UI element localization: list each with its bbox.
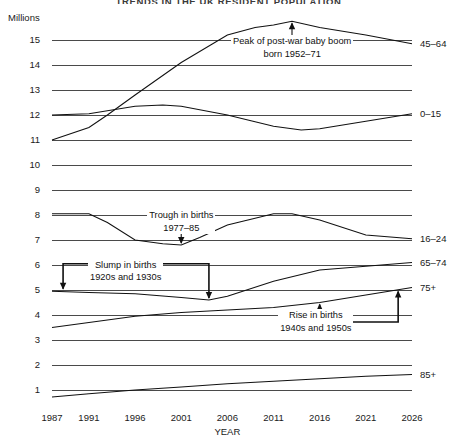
series-label-65-74: 65–74: [420, 257, 446, 268]
annotation-arrowhead: [206, 292, 212, 299]
annotation-trough-in-births: Trough in births1977–85: [147, 209, 215, 234]
x-axis-tick-label: 2026: [392, 412, 432, 423]
series-label-0-15: 0–15: [420, 108, 441, 119]
x-axis-title: YEAR: [197, 426, 257, 437]
annotation-line-1: Rise in births: [280, 309, 351, 322]
annotation-line-2: 1940s and 1950s: [280, 322, 351, 335]
annotation-line-1: Slump in births: [90, 259, 161, 272]
x-axis-tick-label: 2011: [254, 412, 294, 423]
annotation-slump-in-births: Slump in births1920s and 1930s: [88, 259, 163, 284]
x-axis-tick-label: 2021: [346, 412, 386, 423]
y-axis-tick-label: 7: [14, 234, 40, 245]
series-line-85+: [52, 375, 412, 398]
x-axis-tick-label: 2001: [161, 412, 201, 423]
x-axis-tick-label: 1987: [32, 412, 72, 423]
x-axis-tick-label: 2016: [300, 412, 340, 423]
series-label-85+: 85+: [420, 369, 436, 380]
y-axis-tick-label: 2: [14, 359, 40, 370]
y-axis-tick-label: 11: [14, 134, 40, 145]
annotation-line-2: 1920s and 1930s: [90, 271, 161, 284]
annotation-arrowhead: [395, 291, 401, 298]
y-axis-tick-label: 6: [14, 259, 40, 270]
annotation-line-1: Peak of post-war baby boom: [233, 35, 351, 48]
annotation-arrowhead: [289, 22, 295, 29]
y-axis-tick-label: 13: [14, 84, 40, 95]
y-axis-tick-label: 10: [14, 159, 40, 170]
chart-container: TRENDS IN THE UK RESIDENT POPULATION Mil…: [0, 0, 457, 440]
x-axis-tick-label: 1996: [115, 412, 155, 423]
series-line-0-15: [52, 105, 412, 130]
series-label-75+: 75+: [420, 282, 436, 293]
annotation-arrowhead: [60, 283, 66, 290]
annotation-line-2: 1977–85: [149, 222, 213, 235]
annotation-line-1: Trough in births: [149, 209, 213, 222]
chart-plot-area: [0, 0, 457, 440]
series-label-16-24: 16–24: [420, 233, 446, 244]
series-label-45-64: 45–64: [420, 38, 446, 49]
annotation-line-2: born 1952–71: [233, 48, 351, 61]
y-axis-tick-label: 3: [14, 334, 40, 345]
y-axis-tick-label: 12: [14, 109, 40, 120]
annotation-rise-in-births: Rise in births1940s and 1950s: [278, 309, 353, 334]
x-axis-tick-label: 1991: [69, 412, 109, 423]
gridlines-group: [52, 40, 412, 390]
y-axis-tick-label: 15: [14, 34, 40, 45]
y-axis-tick-label: 9: [14, 184, 40, 195]
x-axis-tick-label: 2006: [207, 412, 247, 423]
y-axis-tick-label: 14: [14, 59, 40, 70]
y-axis-tick-label: 8: [14, 209, 40, 220]
y-axis-tick-label: 4: [14, 309, 40, 320]
y-axis-tick-label: 1: [14, 384, 40, 395]
series-lines-group: [52, 21, 412, 397]
y-axis-tick-label: 5: [14, 284, 40, 295]
annotation-peak-baby-boom: Peak of post-war baby boomborn 1952–71: [231, 35, 353, 60]
